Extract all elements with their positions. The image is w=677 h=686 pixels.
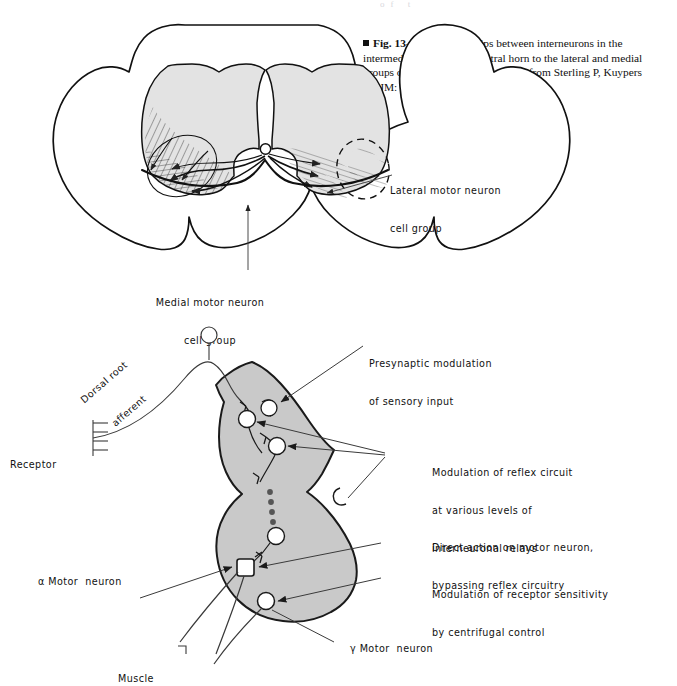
presynaptic-interneuron (261, 400, 277, 416)
label-receptor: Receptor (10, 434, 57, 497)
lateral-terminal-bracket (333, 488, 346, 505)
label-line: Lateral motor neuron (390, 185, 501, 198)
label-line: Motor neuron (356, 643, 433, 654)
spinal-cord-cross-section-drawing (0, 0, 677, 320)
label-presynaptic-modulation: Presynaptic modulation of sensory input (369, 333, 492, 434)
label-line: Medial motor neuron (120, 297, 300, 310)
label-line: of sensory input (369, 396, 492, 409)
alpha-motor-neuron-soma (237, 559, 254, 576)
label-line: Presynaptic modulation (369, 358, 492, 371)
label-gamma-motor-neuron: γ Motor neuron (336, 630, 433, 668)
gamma-motor-neuron-soma (258, 593, 275, 610)
label-line: by centrifugal control (432, 627, 608, 640)
label-alpha-motor-neuron: α Motor neuron (24, 563, 122, 601)
label-line: cell group (390, 223, 501, 236)
label-modulation-of-receptor-sensitivity: Modulation of receptor sensitivity by ce… (432, 564, 608, 665)
label-muscle: Muscle (118, 648, 154, 686)
label-line: Muscle (118, 673, 154, 686)
gray-matter-half-cord (216, 362, 357, 622)
label-line: Motor neuron (45, 576, 122, 587)
interneuron-3 (268, 528, 285, 545)
interneuron-1 (239, 411, 256, 428)
label-line: Modulation of receptor sensitivity (432, 589, 608, 602)
label-lateral-motor-neuron-cell-group: Lateral motor neuron cell group (390, 160, 501, 261)
label-line: Direct action on motor neuron, (432, 542, 594, 555)
interneuron-2 (269, 438, 286, 455)
central-canal (260, 144, 270, 154)
gamma-motor-axon (214, 608, 262, 664)
alpha-symbol: α (38, 576, 45, 587)
alpha-motor-axon (180, 572, 238, 642)
label-line: Receptor (10, 459, 57, 472)
label-line: Modulation of reflex circuit (432, 467, 573, 480)
label-line: afferent (103, 387, 155, 435)
label-line: at various levels of (432, 505, 573, 518)
label-line: Dorsal root (79, 359, 131, 407)
dorsal-root-ganglion-cell (201, 327, 217, 343)
